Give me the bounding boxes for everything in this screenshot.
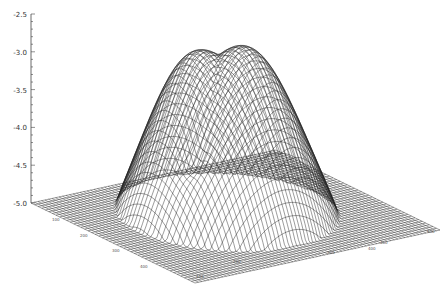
z-tick-label: -4.0: [13, 124, 27, 132]
surface-mesh: [31, 45, 440, 283]
x-axis-labels: 200 300 400 500 400: [233, 229, 435, 264]
mesh-line: [42, 201, 206, 281]
z-axis-ticks: [31, 14, 35, 203]
mesh-line: [35, 202, 199, 282]
mesh-line: [45, 200, 209, 280]
mesh-line: [52, 199, 216, 279]
x-tick-label: 200: [233, 259, 241, 264]
y-tick-label: 300: [112, 248, 120, 253]
z-axis-labels: -2.5 -3.0 -3.5 -4.0 -4.5 -5.0: [13, 11, 27, 208]
z-tick-label: -5.0: [13, 200, 27, 208]
y-tick-label: 100: [52, 217, 60, 222]
surface-plot: -2.5 -3.0 -3.5 -4.0 -4.5 -5.0 200 300 40…: [0, 0, 443, 293]
z-tick-label: -3.5: [13, 87, 27, 95]
z-tick-label: -2.5: [13, 11, 27, 19]
x-tick-label: 300: [327, 250, 335, 255]
mesh-line: [38, 154, 283, 207]
mesh-line: [38, 202, 202, 282]
x-tick-label: 400: [380, 240, 388, 245]
x-tick-label: 400: [368, 246, 376, 251]
y-tick-label: 400: [140, 264, 148, 269]
mesh-line: [70, 195, 234, 275]
mesh-line: [122, 69, 286, 264]
x-tick-label: 500: [427, 229, 435, 234]
mesh-line: [174, 220, 419, 273]
mesh-line: [49, 199, 213, 279]
z-tick-label: -4.5: [13, 162, 27, 170]
mesh-line: [245, 157, 409, 237]
y-tick-label: 200: [80, 233, 88, 238]
mesh-line: [131, 97, 376, 252]
mesh-line: [259, 154, 423, 234]
mesh-line: [77, 59, 322, 226]
mesh-line: [70, 74, 315, 223]
z-tick-label: -3.0: [13, 49, 27, 57]
y-tick-label: 100: [196, 274, 204, 279]
mesh-line: [276, 150, 440, 230]
